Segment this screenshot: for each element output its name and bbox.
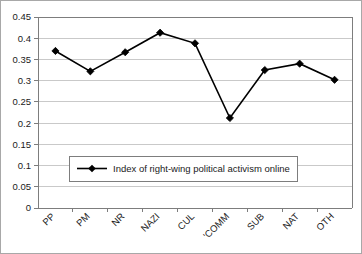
x-axis-tick-label: NAT xyxy=(280,210,301,231)
chart-canvas: 00.050.10.150.20.250.30.350.40.45 PPPMNR… xyxy=(1,1,362,254)
y-axis-tick-label: 0.15 xyxy=(13,139,32,150)
x-axis-tick-label: OTH xyxy=(314,211,336,233)
y-axis-tick-label: 0.35 xyxy=(13,54,32,65)
x-axis-tick-label: CUL xyxy=(175,211,196,232)
x-axis-tick-label: PM xyxy=(74,211,92,229)
y-axis-tick-label: 0 xyxy=(26,202,31,213)
y-axis-tick-label: 0.1 xyxy=(18,160,31,171)
x-axis-tick-label: NAZI xyxy=(138,211,161,234)
line-chart: 00.050.10.150.20.250.30.350.40.45 PPPMNR… xyxy=(0,0,362,254)
x-axis-tick-label: 'COMM xyxy=(201,211,231,241)
y-axis-tick-label: 0.45 xyxy=(13,11,32,22)
x-axis-tick-label: SUB xyxy=(245,211,267,233)
legend-entry-label: Index of right-wing political activism o… xyxy=(113,163,290,174)
chart-legend: Index of right-wing political activism o… xyxy=(69,156,297,181)
x-axis-tick-label: PP xyxy=(40,211,57,228)
y-axis-tick-label: 0.05 xyxy=(13,181,32,192)
y-axis-tick-label: 0.3 xyxy=(18,75,31,86)
y-axis-tick-label: 0.4 xyxy=(18,33,31,44)
y-axis-tick-label: 0.2 xyxy=(18,118,31,129)
x-axis-tick-label: NR xyxy=(109,211,127,229)
x-axis: PPPMNRNAZICUL'COMMSUBNATOTH xyxy=(40,208,336,241)
y-axis: 00.050.10.150.20.250.30.350.40.45 xyxy=(13,11,39,213)
y-axis-tick-label: 0.25 xyxy=(13,96,32,107)
